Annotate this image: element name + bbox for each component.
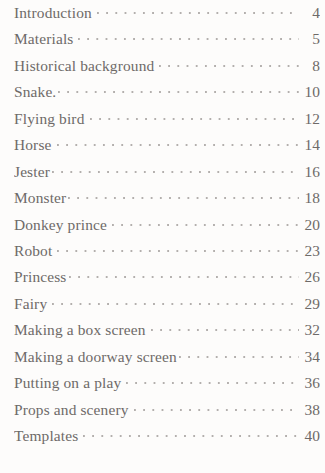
toc-entry-page-number: 34	[301, 344, 320, 370]
dot-leader	[179, 346, 299, 362]
toc-entry-page-number: 8	[301, 53, 320, 79]
dot-leader	[52, 161, 299, 177]
toc-entry-page-number: 36	[301, 370, 320, 396]
toc-entry-page-number: 5	[301, 26, 320, 52]
toc-list: Introduction4Materials5Historical backgr…	[14, 0, 320, 449]
toc-entry-page-number: 12	[301, 106, 320, 132]
dot-leader	[90, 108, 300, 124]
toc-entry-page-number: 23	[301, 238, 320, 264]
toc-entry[interactable]: Props and scenery38	[14, 397, 320, 423]
toc-entry[interactable]: Donkey prince20	[14, 212, 320, 238]
toc-entry-title: Monster	[14, 185, 67, 211]
toc-entry-title: Making a doorway screen	[14, 344, 178, 370]
toc-entry-title: Making a box screen	[14, 317, 150, 343]
toc-entry-title: Donkey prince	[14, 212, 111, 238]
toc-entry-title: Robot	[14, 238, 56, 264]
dot-leader	[58, 81, 299, 97]
toc-entry-page-number: 16	[301, 159, 320, 185]
toc-entry-title: Templates	[14, 423, 82, 449]
toc-entry[interactable]: Introduction4	[14, 0, 320, 26]
toc-entry-page-number: 40	[301, 423, 320, 449]
toc-entry[interactable]: Horse14	[14, 132, 320, 158]
dot-leader	[83, 425, 299, 441]
toc-entry-title: Introduction	[14, 0, 96, 26]
toc-entry[interactable]: Jester16	[14, 159, 320, 185]
dot-leader	[126, 372, 299, 388]
toc-entry[interactable]: Making a doorway screen34	[14, 344, 320, 370]
toc-entry-title: Materials	[14, 26, 77, 52]
toc-entry[interactable]: Materials5	[14, 26, 320, 52]
toc-entry[interactable]: Monster18	[14, 185, 320, 211]
dot-leader	[68, 187, 299, 203]
dot-leader	[112, 214, 299, 230]
toc-entry[interactable]: Snake.10	[14, 79, 320, 105]
toc-entry-title: Props and scenery	[14, 397, 133, 423]
toc-entry-title: Fairy	[14, 291, 51, 317]
toc-entry[interactable]: Flying bird12	[14, 106, 320, 132]
toc-entry-page-number: 14	[301, 132, 320, 158]
toc-entry[interactable]: Templates40	[14, 423, 320, 449]
toc-entry[interactable]: Putting on a play36	[14, 370, 320, 396]
toc-entry[interactable]: Historical background8	[14, 53, 320, 79]
toc-entry-page-number: 20	[301, 212, 320, 238]
toc-entry[interactable]: Making a box screen32	[14, 317, 320, 343]
dot-leader	[69, 266, 300, 282]
toc-entry-page-number: 29	[301, 291, 320, 317]
toc-entry[interactable]: Princess26	[14, 264, 320, 290]
table-of-contents-page: Introduction4Materials5Historical backgr…	[0, 0, 325, 473]
toc-entry-title: Snake.	[14, 79, 57, 105]
dot-leader	[52, 293, 299, 309]
dot-leader	[151, 319, 300, 335]
toc-entry-page-number: 10	[301, 79, 320, 105]
dot-leader	[78, 28, 299, 44]
dot-leader	[57, 134, 299, 150]
toc-entry-title: Horse	[14, 132, 56, 158]
toc-entry-title: Flying bird	[14, 106, 89, 132]
toc-entry-page-number: 18	[301, 185, 320, 211]
dot-leader	[134, 399, 299, 415]
toc-entry-page-number: 32	[301, 317, 320, 343]
toc-entry-title: Princess	[14, 264, 68, 290]
dot-leader	[97, 2, 299, 18]
toc-entry-title: Jester	[14, 159, 51, 185]
dot-leader	[159, 55, 299, 71]
toc-entry-page-number: 4	[301, 0, 320, 26]
toc-entry-page-number: 38	[301, 397, 320, 423]
toc-entry-title: Putting on a play	[14, 370, 125, 396]
toc-entry-page-number: 26	[301, 264, 320, 290]
toc-entry[interactable]: Fairy29	[14, 291, 320, 317]
dot-leader	[57, 240, 299, 256]
toc-entry[interactable]: Robot23	[14, 238, 320, 264]
toc-entry-title: Historical background	[14, 53, 158, 79]
